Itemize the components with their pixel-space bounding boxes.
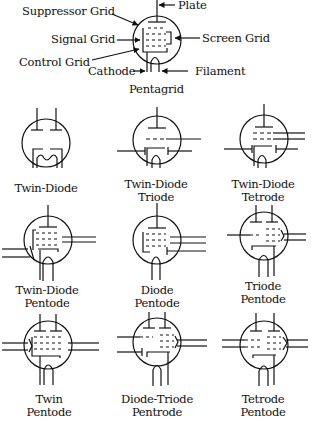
tube-caption: TetrodePentode — [213, 393, 313, 419]
triode-pentode-symbol — [227, 205, 306, 277]
plate-label: Plate — [178, 0, 207, 11]
tube-caption: TriodePentode — [213, 280, 313, 306]
twin-diode-tetrode-symbol — [224, 104, 305, 168]
twin-pentode-symbol — [2, 314, 99, 385]
twin-diode-symbol — [22, 108, 70, 168]
tube-caption: DiodePentode — [107, 284, 207, 310]
diode-pentode-symbol — [133, 203, 206, 280]
twin-diode-triode-symbol — [117, 107, 201, 168]
tube-caption: Twin-DiodeTriode — [106, 178, 206, 204]
diode-triode-pentrode-symbol — [117, 312, 207, 386]
control-grid-label: Control Grid — [19, 56, 90, 68]
tube-caption: Diode-TriodePentrode — [107, 393, 207, 419]
tube-caption: Twin-Diode — [0, 182, 96, 195]
tube-caption: TwinPentode — [0, 393, 99, 419]
pentagrid-caption: Pentagrid — [129, 83, 184, 95]
suppressor-grid-label: Suppressor Grid — [22, 5, 115, 17]
screen-grid-label: Screen Grid — [202, 32, 270, 44]
tube-caption: Twin-DiodePentode — [0, 284, 97, 310]
twin-diode-pentode-symbol — [2, 205, 96, 281]
filament-label: Filament — [195, 65, 245, 77]
tetrode-pentode-symbol — [222, 313, 308, 386]
signal-grid-label: Signal Grid — [51, 33, 115, 45]
cathode-label: Cathode — [88, 65, 135, 77]
tube-caption: Twin-DiodeTetrode — [213, 178, 313, 204]
